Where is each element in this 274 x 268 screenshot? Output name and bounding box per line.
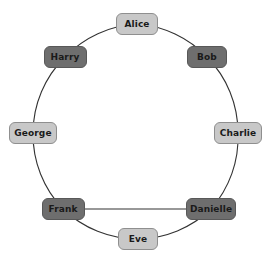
node-george[interactable]: George <box>9 122 57 144</box>
node-harry[interactable]: Harry <box>44 46 87 68</box>
node-label-eve: Eve <box>129 235 147 244</box>
graph-canvas: AliceBobCharlieDanielleEveFrankGeorgeHar… <box>0 0 274 268</box>
node-frank[interactable]: Frank <box>42 198 85 220</box>
node-bob[interactable]: Bob <box>187 46 227 68</box>
node-label-bob: Bob <box>197 53 217 62</box>
node-charlie[interactable]: Charlie <box>214 122 262 144</box>
node-label-danielle: Danielle <box>190 205 232 214</box>
node-label-alice: Alice <box>124 20 149 29</box>
node-label-harry: Harry <box>51 53 80 62</box>
node-label-george: George <box>14 129 51 138</box>
node-danielle[interactable]: Danielle <box>186 198 236 220</box>
node-label-charlie: Charlie <box>220 129 257 138</box>
node-alice[interactable]: Alice <box>116 13 158 35</box>
node-eve[interactable]: Eve <box>118 228 158 250</box>
node-label-frank: Frank <box>49 205 78 214</box>
